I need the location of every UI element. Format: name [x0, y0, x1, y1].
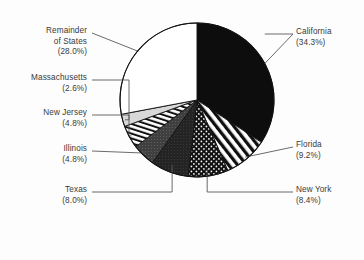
pie-slice-remainder-of-states[interactable]	[120, 23, 197, 114]
slice-label-name: Massachusetts	[0, 73, 87, 84]
slice-label-florida: Florida (9.2%)	[296, 140, 322, 161]
slice-label-texas: Texas (8.0%)	[0, 185, 87, 206]
slice-label-percent: (34.3%)	[296, 38, 332, 49]
slice-label-name: Florida	[296, 140, 322, 151]
slice-label-percent: (8.4%)	[296, 196, 331, 207]
pie-chart-figure: Remainder of States (28.0%) Massachusett…	[0, 0, 364, 260]
slice-label-percent: (28.0%)	[0, 47, 87, 58]
leader-line-illinois	[92, 151, 146, 153]
leader-line-remainder	[92, 33, 138, 51]
slice-label-percent: (2.6%)	[0, 84, 87, 95]
slice-label-percent: (8.0%)	[0, 196, 87, 207]
slice-label-remainder-of-states: Remainder of States (28.0%)	[0, 26, 87, 58]
slice-label-california: California (34.3%)	[296, 27, 332, 48]
slice-label-illinois: Illinois (4.8%)	[0, 144, 87, 165]
slice-label-name: California	[296, 27, 332, 38]
slice-label-name-line1: Remainder	[0, 26, 87, 37]
slice-label-new-jersey: New Jersey (4.8%)	[0, 108, 87, 129]
slice-label-name: New York	[296, 185, 331, 196]
slice-label-name: New Jersey	[0, 108, 87, 119]
slice-label-percent: (4.8%)	[0, 155, 87, 166]
slice-label-name: Illinois	[0, 144, 87, 155]
slice-label-percent: (9.2%)	[296, 151, 322, 162]
leader-line-california	[265, 34, 293, 63]
slice-label-name-line2: of States	[0, 37, 87, 48]
pie-slices-group	[120, 23, 274, 177]
slice-label-new-york: New York (8.4%)	[296, 185, 331, 206]
slice-label-name: Texas	[0, 185, 87, 196]
slice-label-percent: (4.8%)	[0, 119, 87, 130]
slice-label-massachusetts: Massachusetts (2.6%)	[0, 73, 87, 94]
